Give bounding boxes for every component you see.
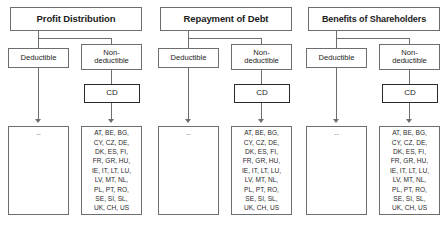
country-code-line: AT, BE, BG, (232, 128, 291, 137)
nondeductible-result-box: AT, BE, BG, CY, CZ, DE, DK, ES, FI, FR, … (231, 126, 292, 215)
country-code-line: AT, BE, BG, (380, 128, 439, 137)
nondeductible-box: Non- deductible (379, 44, 440, 70)
connector-drop-to-deductible (336, 38, 337, 48)
connector-deductible-to-result (188, 68, 189, 120)
nondeductible-result-box: AT, BE, BG, CY, CZ, DE, DK, ES, FI, FR, … (81, 126, 142, 215)
country-code-line: PL, PT, RO, (232, 185, 291, 194)
arrow-down-icon (333, 119, 339, 123)
flowchart-diagram: Profit Distribution Deductible Non- dedu… (0, 0, 448, 227)
connector-cd-to-result (409, 103, 410, 120)
arrow-down-icon (108, 119, 114, 123)
country-code-line: SE, SI, SL, (232, 194, 291, 203)
column-title-box: Benefits of Shareholders (308, 7, 440, 31)
connector-cd-to-result (261, 103, 262, 120)
nondeductible-box: Non- deductible (81, 44, 142, 70)
country-code-line: DK, ES, FI, (380, 147, 439, 156)
arrow-down-icon (185, 119, 191, 123)
deductible-box: Deductible (158, 48, 219, 68)
country-code-line: DK, ES, FI, (232, 147, 291, 156)
nondeductible-label-line2: deductible (244, 57, 279, 66)
country-code-list: AT, BE, BG, CY, CZ, DE, DK, ES, FI, FR, … (380, 128, 439, 212)
column-title-box: Repayment of Debt (160, 7, 292, 31)
country-code-line: AT, BE, BG, (82, 128, 141, 137)
connector-deductible-to-result (336, 68, 337, 120)
deductible-result-box: -- (306, 126, 367, 215)
deductible-result-box: -- (158, 126, 219, 215)
deductible-box: Deductible (306, 48, 367, 68)
arrow-down-icon (258, 119, 264, 123)
country-code-line: LV, MT, NL, (232, 175, 291, 184)
nondeductible-result-box: AT, BE, BG, CY, CZ, DE, DK, ES, FI, FR, … (379, 126, 440, 215)
country-code-line: SE, SI, SL, (82, 194, 141, 203)
deductible-box: Deductible (8, 48, 69, 68)
country-code-line: FR, GR, HU, (380, 156, 439, 165)
country-code-line: CY, CZ, DE, (82, 138, 141, 147)
country-code-line: IE, IT, LT, LU, (82, 166, 141, 175)
country-code-line: LV, MT, NL, (380, 175, 439, 184)
country-code-line: LV, MT, NL, (82, 175, 141, 184)
column-title-box: Profit Distribution (10, 7, 142, 31)
country-code-line: DK, ES, FI, (82, 147, 141, 156)
cd-box: CD (382, 84, 438, 103)
connector-split-bar (188, 38, 262, 39)
arrow-down-icon (35, 119, 41, 123)
deductible-result-box: -- (8, 126, 69, 215)
country-code-line: SE, SI, SL, (380, 194, 439, 203)
cd-box: CD (84, 84, 140, 103)
connector-drop-to-deductible (38, 38, 39, 48)
country-code-line: IE, IT, LT, LU, (232, 166, 291, 175)
country-code-list: AT, BE, BG, CY, CZ, DE, DK, ES, FI, FR, … (82, 128, 141, 212)
nondeductible-label-line2: deductible (392, 57, 427, 66)
country-code-line: UK, CH, US (232, 203, 291, 212)
country-code-line: FR, GR, HU, (232, 156, 291, 165)
connector-drop-to-deductible (188, 38, 189, 48)
connector-nondeductible-to-cd (111, 70, 112, 84)
connector-cd-to-result (111, 103, 112, 120)
country-code-line: CY, CZ, DE, (232, 138, 291, 147)
country-code-line: UK, CH, US (82, 203, 141, 212)
flow-column-profit-distribution: Profit Distribution Deductible Non- dedu… (2, 0, 148, 227)
connector-split-bar (336, 38, 410, 39)
country-code-line: CY, CZ, DE, (380, 138, 439, 147)
arrow-down-icon (406, 119, 412, 123)
country-code-line: FR, GR, HU, (82, 156, 141, 165)
country-code-line: IE, IT, LT, LU, (380, 166, 439, 175)
connector-nondeductible-to-cd (409, 70, 410, 84)
country-code-line: PL, PT, RO, (82, 185, 141, 194)
nondeductible-label-line2: deductible (94, 57, 129, 66)
connector-nondeductible-to-cd (261, 70, 262, 84)
country-code-list: AT, BE, BG, CY, CZ, DE, DK, ES, FI, FR, … (232, 128, 291, 212)
flow-column-benefits-of-shareholders: Benefits of Shareholders Deductible Non-… (300, 0, 446, 227)
connector-split-bar (38, 38, 112, 39)
cd-box: CD (234, 84, 290, 103)
flow-column-repayment-of-debt: Repayment of Debt Deductible Non- deduct… (152, 0, 298, 227)
connector-deductible-to-result (38, 68, 39, 120)
country-code-line: UK, CH, US (380, 203, 439, 212)
nondeductible-box: Non- deductible (231, 44, 292, 70)
country-code-line: PL, PT, RO, (380, 185, 439, 194)
